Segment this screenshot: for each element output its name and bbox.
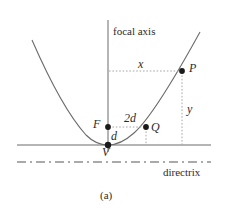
- measure-label-2d: 2d: [124, 112, 136, 124]
- point-label-P: P: [189, 62, 196, 74]
- directrix-label: directrix: [163, 167, 200, 178]
- measure-label-y: y: [187, 103, 192, 115]
- focal-axis-label: focal axis: [113, 26, 155, 37]
- figure-caption: (a): [100, 190, 112, 201]
- point-label-V: V: [102, 146, 109, 158]
- point-label-Q: Q: [151, 121, 160, 133]
- measure-label-d: d: [111, 130, 117, 142]
- parabola-figure: focal axis directrix (a) P Q F V x y d 2…: [0, 0, 227, 219]
- point-label-F: F: [93, 118, 100, 130]
- point-marker-P: [179, 68, 185, 74]
- point-marker-Q: [143, 124, 149, 130]
- measure-label-x: x: [138, 58, 143, 70]
